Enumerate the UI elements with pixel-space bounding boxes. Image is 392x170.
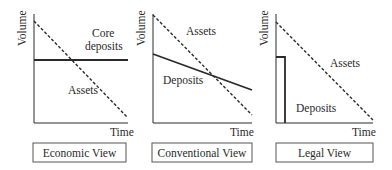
assets-label: Assets xyxy=(186,25,217,37)
x-axis-label: Time xyxy=(110,126,134,138)
panel-legal-view: Volume Assets Deposits Time Legal View xyxy=(258,10,376,162)
assets-label: Assets xyxy=(68,84,99,96)
deposit-views-diagram: Volume Core deposits Assets Time Economi… xyxy=(0,0,392,170)
panel-conventional-view: Volume Assets Deposits Time Conventional… xyxy=(135,10,254,162)
core-deposits-label-line2: deposits xyxy=(85,40,123,53)
x-axis-label: Time xyxy=(230,126,254,138)
x-axis-label: Time xyxy=(352,126,376,138)
deposits-label: Deposits xyxy=(296,102,337,115)
assets-label: Assets xyxy=(330,57,361,69)
deposits-step xyxy=(276,57,285,123)
view-title: Legal View xyxy=(298,147,352,160)
view-title: Conventional View xyxy=(158,147,248,159)
y-axis-label: Volume xyxy=(16,10,28,46)
deposits-label: Deposits xyxy=(163,74,204,87)
view-title: Economic View xyxy=(43,147,117,159)
y-axis-label: Volume xyxy=(135,10,147,46)
core-deposits-label-line1: Core xyxy=(92,27,114,39)
y-axis-label: Volume xyxy=(258,10,270,46)
panel-economic-view: Volume Core deposits Assets Time Economi… xyxy=(16,10,134,162)
